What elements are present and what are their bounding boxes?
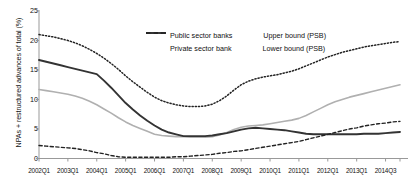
legend-item-upper-bound-psb: Upper bound (PSB) <box>239 31 326 40</box>
legend-item-private-sector-bank: Private sector bank <box>146 44 232 53</box>
legend-row-1: Public sector banks Upper bound (PSB) <box>146 29 333 42</box>
legend-item-lower-bound-psb: Lower bound (PSB) <box>239 44 326 53</box>
legend-label-upper-bound-psb: Upper bound (PSB) <box>263 31 326 40</box>
legend-label-public-sector-banks: Public sector banks <box>170 31 232 40</box>
chart-legend: Public sector banks Upper bound (PSB) Pr… <box>146 29 333 55</box>
chart-container: NPAs + restructured advances of total (%… <box>0 0 414 187</box>
legend-label-private-sector-bank: Private sector bank <box>170 44 232 53</box>
series-line-lower-bound-psb <box>39 121 400 157</box>
legend-swatch-lower-bound-psb <box>239 45 259 53</box>
x-tick-label: 2014Q3 <box>369 168 403 174</box>
legend-swatch-private-sector-bank <box>146 45 166 53</box>
legend-swatch-upper-bound-psb <box>239 32 259 40</box>
legend-swatch-lower-bound-psb-glyph <box>146 29 166 37</box>
legend-row-2: Private sector bank Lower bound (PSB) <box>146 42 333 55</box>
legend-label-lower-bound-psb: Lower bound (PSB) <box>263 44 326 53</box>
